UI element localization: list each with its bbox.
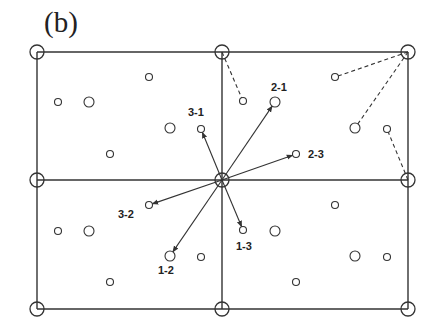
sample-point — [55, 99, 62, 106]
sample-point — [350, 251, 360, 261]
sample-point — [84, 226, 94, 236]
sample-point — [384, 254, 391, 261]
dashed-link — [222, 52, 243, 101]
sample-point — [270, 97, 280, 107]
sample-point — [165, 251, 175, 261]
point-label: 3-1 — [188, 106, 204, 118]
sample-point — [270, 226, 280, 236]
sample-point — [293, 279, 300, 286]
arrow-3-1 — [202, 132, 222, 180]
arrow-2-1 — [222, 106, 272, 180]
sample-point — [240, 227, 247, 234]
sample-point — [384, 126, 391, 133]
sample-point — [146, 202, 153, 209]
point-label: 3-2 — [118, 208, 134, 220]
point-label: 2-3 — [308, 148, 324, 160]
point-label: 2-1 — [271, 81, 287, 93]
sample-point — [198, 254, 205, 261]
arrow-3-2 — [152, 180, 222, 204]
sample-point — [165, 123, 175, 133]
dashed-link — [355, 52, 408, 128]
dashed-links — [222, 52, 408, 180]
sample-point — [198, 126, 205, 133]
point-label: 1-2 — [158, 264, 174, 276]
sample-point — [107, 279, 114, 286]
sample-point — [350, 123, 360, 133]
arrow-2-3 — [222, 155, 293, 180]
sample-point — [293, 151, 300, 158]
dashed-link — [387, 129, 408, 180]
point-label: 1-3 — [236, 240, 252, 252]
dashed-link — [335, 52, 408, 77]
arrow-1-2 — [173, 180, 222, 252]
sample-point — [240, 98, 247, 105]
sample-point — [55, 228, 62, 235]
sample-point — [332, 74, 339, 81]
grid-diagram: 3-12-12-33-21-21-3 — [0, 0, 431, 334]
sample-point — [332, 202, 339, 209]
sample-point — [84, 97, 94, 107]
sample-point — [107, 151, 114, 158]
sample-point — [146, 74, 153, 81]
